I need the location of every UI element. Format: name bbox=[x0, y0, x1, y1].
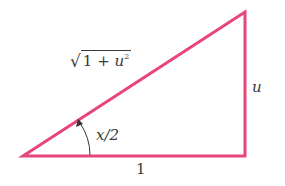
hypotenuse-label: √1 + u2 bbox=[70, 50, 131, 70]
triangle-graphic bbox=[0, 0, 285, 186]
radicand-variable: u bbox=[115, 52, 125, 70]
radicand-exponent: 2 bbox=[124, 52, 129, 61]
triangle-diagram: √1 + u2 u 1 x/2 bbox=[0, 0, 285, 186]
radicand-prefix: 1 + bbox=[83, 52, 115, 70]
adjacent-side-label: 1 bbox=[136, 162, 146, 177]
right-triangle bbox=[23, 12, 245, 156]
radicand: 1 + u2 bbox=[81, 50, 131, 69]
opposite-side-label: u bbox=[252, 80, 262, 95]
angle-arc-arrow bbox=[80, 123, 90, 155]
sqrt-icon: √ bbox=[70, 53, 81, 70]
angle-label: x/2 bbox=[96, 128, 119, 143]
